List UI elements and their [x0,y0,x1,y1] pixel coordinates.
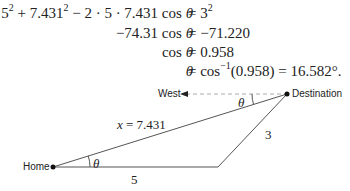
base-label: 5 [131,172,138,188]
destination-angle-label: θ [238,95,244,111]
west-label: West [158,88,181,99]
home-angle-arc [88,156,90,167]
destination-dot [285,92,290,97]
home-angle-label: θ [93,156,99,172]
destination-angle-arc [252,94,254,105]
hypotenuse-label: x = 7.431 [117,117,166,133]
right-side-label: 3 [265,127,272,143]
home-label: Home [23,161,50,172]
west-arrow-icon [180,91,188,97]
destination-label: Destination [292,88,342,99]
home-dot [51,165,56,170]
